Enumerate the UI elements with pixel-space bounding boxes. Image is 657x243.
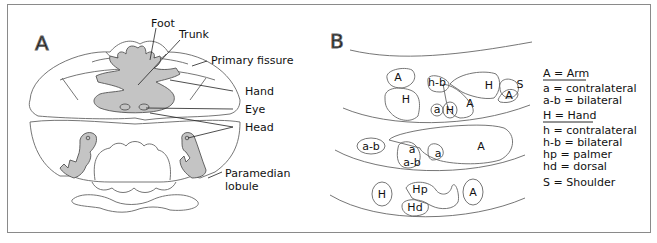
panel-b-letter: B [330, 29, 344, 53]
region-r3-Hp: Hp [412, 183, 427, 196]
region-r1-S: S [517, 78, 524, 91]
region-r1-H2: H [446, 104, 454, 117]
region-r2-A: A [477, 140, 485, 153]
region-r2-a2: a [435, 147, 442, 160]
panel-b: B A H h-b a H A H [330, 29, 637, 217]
region-r1-H: H [402, 93, 410, 106]
region-r3-H: H [378, 188, 386, 201]
label-foot: Foot [151, 17, 175, 30]
label-trunk: Trunk [178, 28, 210, 41]
region-r1-hb: h-b [428, 76, 446, 89]
region-r3-Hd: Hd [407, 201, 422, 214]
panel-a: A [29, 17, 293, 212]
region-r1-a: a [434, 103, 441, 116]
figure: A [0, 0, 657, 243]
region-r1-A2: A [466, 97, 474, 110]
region-r1-H3: H [485, 79, 493, 92]
region-r2-a: a [409, 143, 416, 156]
legend-shoulder: S = Shoulder [543, 176, 616, 189]
region-r1-A: A [394, 71, 402, 84]
panel-a-letter: A [35, 31, 49, 55]
region-r2-ab: a-b [362, 140, 380, 153]
legend: A = Arm a = contralateral a-b = bilatera… [543, 67, 637, 189]
label-paramedian: Paramedian [225, 167, 290, 180]
region-r1-A3: A [505, 89, 513, 102]
label-lobule: lobule [225, 180, 259, 193]
label-hand: Hand [245, 85, 274, 98]
label-head: Head [245, 121, 274, 134]
legend-arm-heading: A = Arm [543, 67, 589, 80]
label-primary-fissure: Primary fissure [211, 54, 294, 67]
legend-arm-item: a-b = bilateral [543, 94, 622, 107]
region-r3-A: A [469, 186, 477, 199]
region-r2-ab2: a-b [403, 156, 421, 169]
label-eye: Eye [245, 103, 265, 116]
legend-hand-heading: H = Hand [543, 109, 596, 122]
legend-hand-item: hd = dorsal [543, 160, 607, 173]
